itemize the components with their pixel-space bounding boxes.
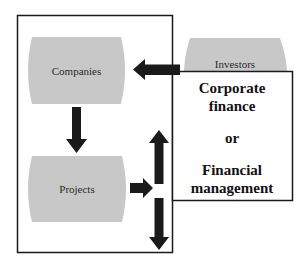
arrow-projects-to-finance: [130, 178, 153, 198]
finance-line-management: management: [191, 180, 274, 196]
finance-line-finance: finance: [209, 98, 256, 114]
diagram-canvas: Investors Companies Projects Corporate f…: [0, 0, 307, 271]
projects-node: Projects: [28, 156, 126, 222]
projects-label: Projects: [59, 183, 94, 195]
finance-line-or: or: [225, 130, 240, 146]
finance-line-corporate: Corporate: [199, 80, 266, 96]
companies-node: Companies: [28, 37, 125, 104]
companies-label: Companies: [52, 65, 102, 77]
finance-line-financial: Financial: [202, 162, 262, 178]
arrow-up-from-finance: [149, 130, 169, 184]
arrow-down-from-finance: [149, 198, 169, 250]
finance-box: Corporate finance or Financial managemen…: [173, 72, 293, 201]
investors-label: Investors: [215, 58, 255, 70]
arrow-companies-to-projects: [66, 107, 87, 153]
